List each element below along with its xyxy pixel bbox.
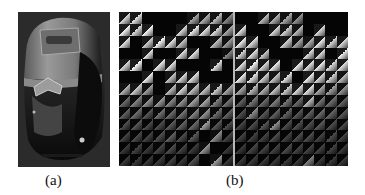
- cell-triangle: [130, 107, 141, 119]
- grid-cell: [119, 142, 130, 154]
- grid-cell: [303, 107, 314, 119]
- grid-cell: [176, 119, 187, 131]
- cell-triangle: [235, 119, 246, 131]
- cell-triangle: [314, 154, 325, 166]
- grid-cell: [337, 95, 348, 107]
- cell-triangle: [303, 71, 314, 83]
- grid-cell: [153, 119, 164, 131]
- cell-triangle: [292, 36, 303, 48]
- grid-cell: [303, 142, 314, 154]
- grid-cell: [130, 59, 141, 71]
- cell-triangle: [210, 107, 221, 119]
- grid-cell: [199, 130, 210, 142]
- cell-triangle: [337, 95, 348, 107]
- grid-cell: [269, 154, 280, 166]
- grid-cell: [210, 48, 221, 60]
- grid-cell: [292, 71, 303, 83]
- cell-triangle: [119, 142, 130, 154]
- caption-b: (b): [226, 172, 244, 189]
- grid-cell: [165, 130, 176, 142]
- grid-cell: [280, 12, 291, 24]
- grid-cell: [269, 130, 280, 142]
- cell-triangle: [280, 83, 291, 95]
- cell-triangle: [258, 95, 269, 107]
- cell-triangle: [210, 119, 221, 131]
- cell-triangle: [246, 59, 257, 71]
- grid-cell: [258, 59, 269, 71]
- grid-cell: [292, 95, 303, 107]
- cell-triangle: [199, 142, 210, 154]
- cell-triangle: [222, 12, 233, 24]
- cell-triangle: [187, 95, 198, 107]
- grid-cell: [314, 107, 325, 119]
- grid-cell: [153, 95, 164, 107]
- grid-cell: [119, 119, 130, 131]
- grid-cell: [142, 154, 153, 166]
- grid-cell: [176, 154, 187, 166]
- grid-cell: [222, 59, 233, 71]
- grid-cell: [280, 71, 291, 83]
- cell-triangle: [199, 107, 210, 119]
- cell-triangle: [165, 71, 176, 83]
- grid-cell: [337, 83, 348, 95]
- grid-cell: [142, 36, 153, 48]
- grid-cell: [314, 83, 325, 95]
- grid-cell: [314, 48, 325, 60]
- cell-triangle: [292, 119, 303, 131]
- grid-cell: [176, 71, 187, 83]
- grid-cell: [142, 24, 153, 36]
- cell-triangle: [142, 24, 153, 36]
- grid-cell: [337, 48, 348, 60]
- grid-cell: [222, 24, 233, 36]
- cell-triangle: [303, 119, 314, 131]
- grid-cell: [235, 48, 246, 60]
- grid-cell: [258, 48, 269, 60]
- cell-triangle: [142, 130, 153, 142]
- grid-cell: [246, 119, 257, 131]
- grid-cell: [280, 154, 291, 166]
- grid-cell: [130, 142, 141, 154]
- grid-cell: [280, 48, 291, 60]
- triangle-grid-right: [235, 12, 348, 166]
- cell-triangle: [246, 83, 257, 95]
- cell-triangle: [176, 83, 187, 95]
- cell-triangle: [210, 95, 221, 107]
- grid-cell: [210, 130, 221, 142]
- grid-cell: [222, 95, 233, 107]
- grid-cell: [142, 83, 153, 95]
- grid-cell: [130, 107, 141, 119]
- cell-triangle: [130, 59, 141, 71]
- grid-cell: [258, 71, 269, 83]
- grid-cell: [187, 12, 198, 24]
- grid-cell: [325, 59, 336, 71]
- cell-triangle: [303, 95, 314, 107]
- grid-cell: [153, 71, 164, 83]
- grid-cell: [325, 107, 336, 119]
- cell-triangle: [235, 71, 246, 83]
- device-illustration: [18, 12, 110, 167]
- cell-triangle: [337, 48, 348, 60]
- grid-cell: [292, 119, 303, 131]
- grid-cell: [258, 24, 269, 36]
- cell-triangle: [199, 119, 210, 131]
- grid-cell: [199, 59, 210, 71]
- cell-triangle: [187, 24, 198, 36]
- grid-cell: [280, 119, 291, 131]
- triangle-grid-left: [119, 12, 233, 166]
- grid-cell: [292, 24, 303, 36]
- cell-triangle: [165, 95, 176, 107]
- grid-cell: [153, 59, 164, 71]
- cell-triangle: [222, 95, 233, 107]
- cell-triangle: [303, 142, 314, 154]
- cell-triangle: [176, 130, 187, 142]
- cell-triangle: [325, 59, 336, 71]
- cell-triangle: [176, 119, 187, 131]
- cell-triangle: [210, 130, 221, 142]
- grid-cell: [142, 119, 153, 131]
- grid-cell: [246, 95, 257, 107]
- grid-cell: [235, 142, 246, 154]
- cell-triangle: [130, 154, 141, 166]
- grid-cell: [303, 119, 314, 131]
- cell-triangle: [119, 130, 130, 142]
- cell-triangle: [153, 130, 164, 142]
